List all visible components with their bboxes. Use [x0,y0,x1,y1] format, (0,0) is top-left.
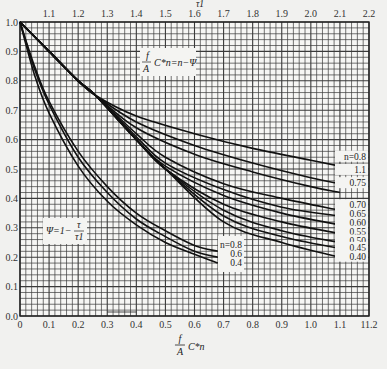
x-tick-label: 0.7 [217,319,230,330]
x-tick-label: 0.3 [101,319,114,330]
x-tick-label: 11.2 [360,319,377,330]
x-axis-label-den: A [176,346,184,357]
series-label: 0.75 [349,178,366,188]
x-tick-label: 1.1 [334,319,347,330]
y-tick-label: 0.8 [6,75,19,86]
x-top-tick-label: 1.7 [217,8,230,19]
x-tick-label: 0.1 [43,319,56,330]
y-tick-label: 0.3 [6,222,19,233]
x-tick-label: 0.4 [130,319,143,330]
x-top-tick-label: 1.6 [188,8,201,19]
x-tick-label: 0 [18,319,23,330]
x-top-tick-label: 2.0 [305,8,318,19]
svg-text:τ1: τ1 [75,231,84,242]
formula-top: C*n=n−Ψ [154,57,197,68]
x-tick-label: 0.9 [276,319,289,330]
x-top-tick-label: 2.2 [363,8,376,19]
x-top-tick-label: 1.8 [246,8,259,19]
x-tick-label: 0.2 [72,319,85,330]
series-label: 0.40 [349,252,366,262]
chart: 00.10.20.30.40.50.60.70.80.91.01.111.21.… [0,0,387,369]
svg-text:τ: τ [77,219,81,230]
x-top-tick-label: 1.1 [43,8,56,19]
x-top-tick-label: 2.1 [334,8,347,19]
series-label: 1.1 [354,165,366,175]
x-top-tick-label: 1.4 [130,8,143,19]
x-tick-label: 0.8 [246,319,259,330]
x-tick-label: 1.0 [305,319,318,330]
y-tick-label: 1.0 [6,17,19,28]
y-tick-label: 0.7 [6,105,19,116]
series-label: n=0.8 [344,152,366,162]
y-tick-label: 0.5 [6,164,19,175]
x-tick-label: 0.5 [159,319,172,330]
y-tick-label: 0.1 [6,281,19,292]
y-tick-label: 0.0 [6,311,19,322]
x-top-tick-label: 1.5 [159,8,172,19]
x-tick-label: 0.6 [188,319,201,330]
top-axis-label: τ1 [196,0,204,9]
x-top-tick-label: 1.3 [101,8,114,19]
y-tick-label: 0.2 [6,252,19,263]
x-top-tick-label: 1.2 [72,8,85,19]
y-tick-label: 0.9 [6,46,19,57]
y-tick-label: 0.4 [6,193,19,204]
svg-text:A: A [142,63,150,74]
x-axis-label-num: f [179,333,183,344]
series-label-lower: 0.4 [230,258,242,268]
x-axis-label-c: C*n [188,341,205,352]
y-tick-label: 0.6 [6,134,19,145]
formula-psi: Ψ=1− [46,225,72,236]
x-top-tick-label: 1.9 [276,8,289,19]
